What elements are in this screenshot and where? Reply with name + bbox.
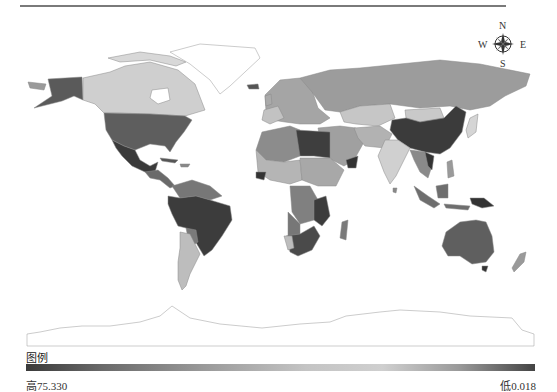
region-brazil xyxy=(168,196,232,256)
compass-east-label: E xyxy=(520,39,526,50)
legend-color-ramp xyxy=(26,364,535,371)
legend-low-label: 低0.018 xyxy=(500,377,536,392)
region-namibia xyxy=(284,236,294,250)
legend-title: 图例 xyxy=(26,349,48,365)
region-hispaniola xyxy=(180,164,190,167)
region-east-africa xyxy=(314,196,330,226)
region-papua-new-guinea xyxy=(470,198,494,208)
compass-south-label: S xyxy=(500,58,506,69)
region-guinea xyxy=(256,172,266,180)
region-iceland xyxy=(247,84,259,89)
compass-rose: N W E S xyxy=(478,22,528,72)
region-antarctica xyxy=(27,306,534,346)
region-central-america xyxy=(145,170,175,188)
region-aleutians xyxy=(28,82,46,90)
region-libya-egypt xyxy=(296,130,330,158)
region-uk xyxy=(265,94,272,106)
region-alaska xyxy=(34,77,83,108)
region-philippines xyxy=(447,160,454,178)
region-indonesia xyxy=(414,184,470,210)
region-sri-lanka xyxy=(393,188,397,193)
region-madagascar xyxy=(340,220,348,240)
region-canada xyxy=(83,62,205,116)
compass-north-label: N xyxy=(499,20,506,31)
region-australia xyxy=(442,220,494,264)
legend-high-label: 高75.330 xyxy=(26,377,67,392)
region-tasmania xyxy=(482,266,488,272)
region-india xyxy=(378,140,410,184)
world-map xyxy=(0,0,557,392)
region-japan xyxy=(466,114,478,138)
region-cuba xyxy=(160,158,178,163)
compass-star-icon xyxy=(492,33,514,55)
region-new-zealand xyxy=(512,252,526,272)
compass-west-label: W xyxy=(478,39,487,50)
